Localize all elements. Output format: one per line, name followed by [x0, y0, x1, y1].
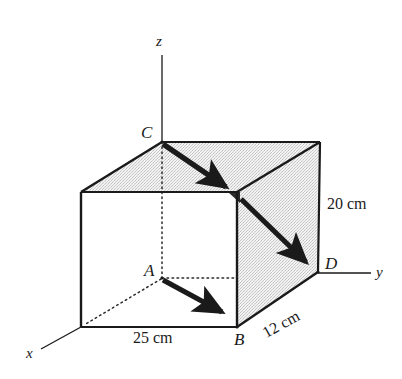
vertex-label-c: C	[141, 124, 152, 141]
vertex-label-b: B	[234, 331, 244, 348]
axis-label-x: x	[26, 346, 33, 361]
x-axis-line	[41, 327, 81, 349]
axis-label-z: z	[156, 34, 162, 49]
vertex-dot-a	[160, 276, 163, 279]
vertex-dot-d	[316, 270, 319, 273]
vertex-dot-c	[160, 140, 163, 143]
figure-canvas: z y x C A B D 20 cm 25 cm 12 cm	[0, 0, 402, 379]
axis-label-y: y	[376, 265, 383, 280]
vertex-label-a: A	[144, 262, 154, 279]
dimension-label-height: 20 cm	[327, 196, 367, 212]
vertex-dot-b	[235, 325, 238, 328]
vertex-label-d: D	[325, 255, 337, 272]
dimension-label-width: 25 cm	[133, 330, 173, 346]
box-diagram-svg	[0, 0, 402, 379]
